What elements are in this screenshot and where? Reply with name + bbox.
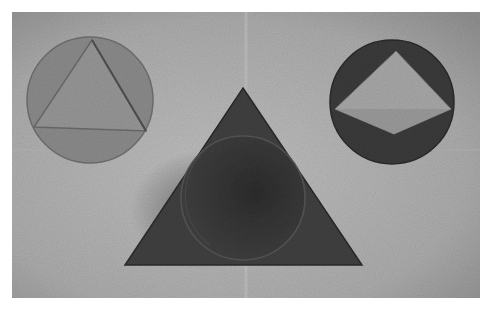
left-circle-with-triangle xyxy=(27,37,153,163)
right-circle-with-diamond xyxy=(330,40,454,164)
photograph xyxy=(12,12,480,298)
